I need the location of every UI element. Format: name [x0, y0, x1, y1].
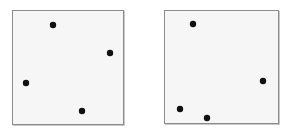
left-point-1 [50, 22, 56, 28]
dots-layer [0, 0, 285, 134]
left-point-4 [79, 108, 85, 114]
right-point-2 [260, 78, 266, 84]
right-panel-points [177, 21, 266, 121]
right-point-1 [190, 21, 196, 27]
left-panel-points [23, 22, 113, 114]
left-point-2 [107, 50, 113, 56]
right-point-3 [177, 106, 183, 112]
right-point-4 [204, 115, 210, 121]
left-point-3 [23, 80, 29, 86]
